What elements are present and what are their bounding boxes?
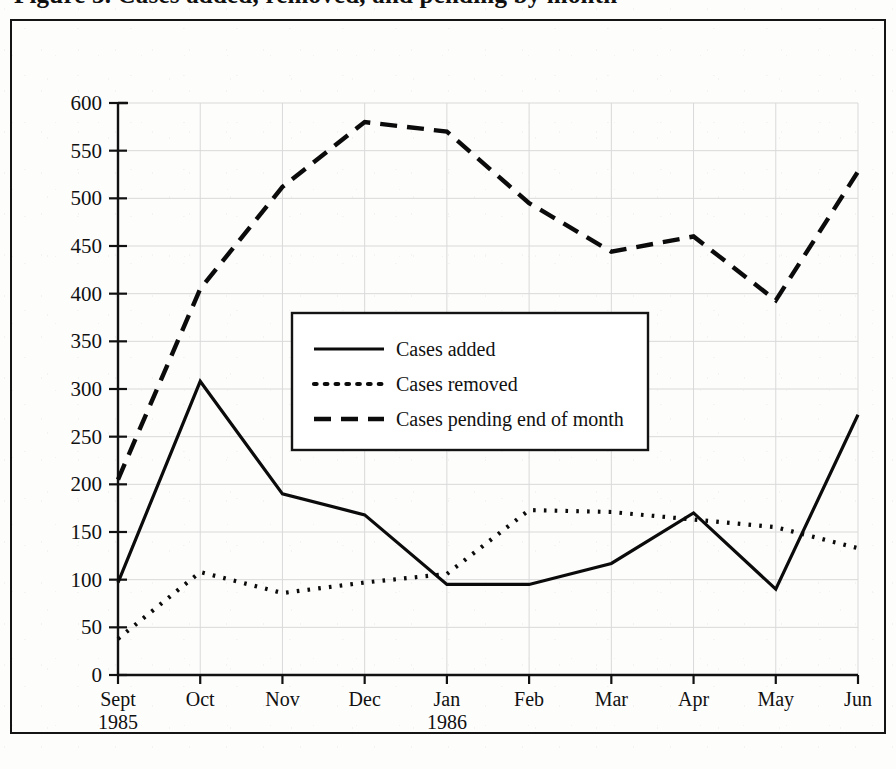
x-tick-label: Feb <box>514 688 544 710</box>
x-tick-label: Apr <box>678 688 709 711</box>
x-tick-label-year: 1986 <box>427 711 467 733</box>
y-tick-label: 250 <box>71 425 103 449</box>
y-tick-label: 300 <box>71 377 103 401</box>
x-tick-label: May <box>757 688 794 711</box>
x-tick-label: Oct <box>186 688 215 710</box>
legend-label: Cases removed <box>396 373 518 395</box>
y-tick-label: 100 <box>71 568 103 592</box>
x-tick-marks <box>118 675 858 684</box>
y-tick-label: 600 <box>71 91 103 115</box>
y-tick-label: 400 <box>71 282 103 306</box>
x-tick-label: Mar <box>595 688 629 710</box>
y-tick-label: 150 <box>71 520 103 544</box>
legend-label: Cases added <box>396 338 495 360</box>
series-dotted <box>118 510 858 639</box>
x-tick-label-year: 1985 <box>98 711 138 733</box>
y-tick-label: 50 <box>81 615 102 639</box>
x-tick-label: Sept <box>100 688 136 711</box>
chart-legend: Cases addedCases removedCases pending en… <box>292 313 648 450</box>
x-tick-label: Nov <box>265 688 299 710</box>
y-tick-label: 450 <box>71 234 103 258</box>
y-tick-label: 0 <box>92 663 103 687</box>
legend-label: Cases pending end of month <box>396 408 624 431</box>
line-chart: 600550500450400350300250200150100500 Sep… <box>0 0 896 769</box>
y-tick-label: 550 <box>71 139 103 163</box>
y-tick-label: 350 <box>71 329 103 353</box>
x-tick-labels: Sept1985OctNovDecJan1986FebMarAprMayJun <box>98 688 872 733</box>
x-tick-label: Jan <box>434 688 461 710</box>
x-tick-label: Dec <box>349 688 381 710</box>
y-tick-label: 500 <box>71 186 103 210</box>
y-tick-labels: 600550500450400350300250200150100500 <box>71 91 103 687</box>
y-tick-label: 200 <box>71 472 103 496</box>
x-tick-label: Jun <box>844 688 872 710</box>
